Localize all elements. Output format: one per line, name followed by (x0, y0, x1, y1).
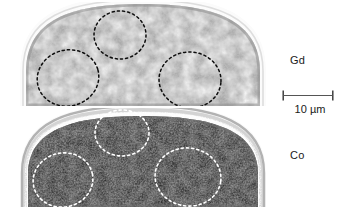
co-element-map-panel (18, 108, 269, 207)
scale-bar-label: 10 µm (285, 103, 335, 115)
co-map-image (18, 108, 269, 207)
elemental-map-figure: Gd Co 10 µm (0, 0, 351, 209)
gd-map-image (18, 2, 269, 106)
scale-bar (282, 89, 334, 102)
gd-panel-label: Gd (290, 54, 305, 66)
gd-element-map-panel (18, 2, 269, 106)
co-panel-label: Co (290, 149, 304, 161)
